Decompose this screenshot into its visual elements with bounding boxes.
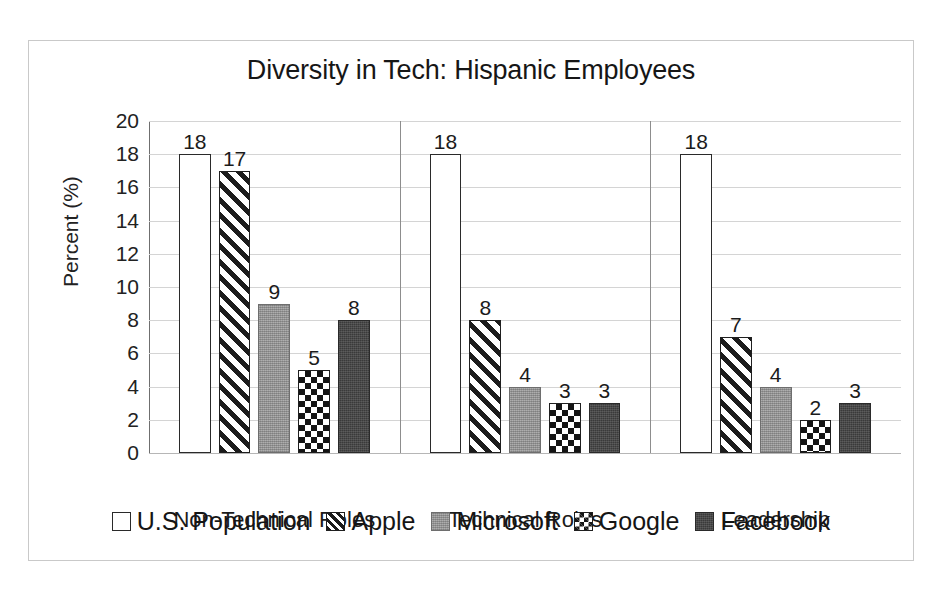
bar-value-label: 18 [183, 131, 206, 152]
y-tick-label-2: 2 [127, 408, 139, 432]
plot-area: 20181614121086420 1817958188433187423 [149, 121, 901, 453]
bar-value-label: 18 [685, 131, 708, 152]
bar-group: 187423 [650, 121, 901, 453]
bar-value-label: 3 [599, 380, 611, 401]
y-tick-label-14: 14 [116, 209, 139, 233]
bar[interactable]: 8 [338, 320, 370, 453]
legend-item[interactable]: Facebook [695, 509, 830, 534]
legend-label: Google [599, 509, 680, 534]
bar[interactable]: 3 [839, 403, 871, 453]
bar-value-label: 17 [223, 148, 246, 169]
y-tick-label-0: 0 [127, 441, 139, 465]
bar-group: 1817958 [149, 121, 400, 453]
bar-value-label: 4 [770, 364, 782, 385]
y-tick-label-10: 10 [116, 275, 139, 299]
legend-label: Facebook [720, 509, 830, 534]
y-tick-label-8: 8 [127, 308, 139, 332]
gridline-0 [149, 453, 901, 454]
bar[interactable]: 18 [430, 154, 462, 453]
legend-swatch-icon [431, 512, 450, 531]
bar[interactable]: 4 [509, 387, 541, 453]
legend-label: U.S. Population [137, 509, 311, 534]
legend-swatch-icon [574, 512, 593, 531]
chart-frame: Diversity in Tech: Hispanic Employees Pe… [28, 40, 914, 561]
category-separator [400, 121, 401, 453]
bar[interactable]: 2 [800, 420, 832, 453]
y-tick-label-4: 4 [127, 375, 139, 399]
bar[interactable]: 7 [720, 337, 752, 453]
legend-item[interactable]: Apple [326, 509, 415, 534]
bar[interactable]: 17 [219, 171, 251, 453]
y-tick-label-16: 16 [116, 175, 139, 199]
bar-value-label: 8 [479, 297, 491, 318]
bar[interactable]: 9 [258, 304, 290, 453]
bar-value-label: 4 [519, 364, 531, 385]
legend-label: Apple [351, 509, 415, 534]
legend-item[interactable]: Google [574, 509, 680, 534]
bar[interactable]: 8 [469, 320, 501, 453]
y-tick-label-12: 12 [116, 242, 139, 266]
bar-value-label: 9 [268, 281, 280, 302]
y-tick-label-6: 6 [127, 341, 139, 365]
bar[interactable]: 18 [179, 154, 211, 453]
bar[interactable]: 4 [760, 387, 792, 453]
bar-value-label: 5 [308, 347, 320, 368]
chart-legend: U.S. PopulationAppleMicrosoftGoogleFaceb… [29, 509, 913, 534]
legend-swatch-icon [695, 512, 714, 531]
bar-value-label: 8 [348, 297, 360, 318]
category-separator [650, 121, 651, 453]
bar[interactable]: 3 [549, 403, 581, 453]
bar[interactable]: 18 [680, 154, 712, 453]
legend-item[interactable]: U.S. Population [112, 509, 311, 534]
y-axis-title: Percent (%) [59, 176, 83, 287]
bar-value-label: 7 [730, 314, 742, 335]
bar[interactable]: 3 [589, 403, 621, 453]
y-tick-label-20: 20 [116, 109, 139, 133]
y-tick-label-18: 18 [116, 142, 139, 166]
bar-value-label: 3 [559, 380, 571, 401]
bar-group: 188433 [400, 121, 651, 453]
bar-value-label: 3 [849, 380, 861, 401]
bar[interactable]: 5 [298, 370, 330, 453]
bar-value-label: 2 [810, 397, 822, 418]
legend-swatch-icon [326, 512, 345, 531]
legend-label: Microsoft [456, 509, 557, 534]
chart-title: Diversity in Tech: Hispanic Employees [29, 55, 913, 86]
bar-value-label: 18 [434, 131, 457, 152]
legend-swatch-icon [112, 512, 131, 531]
legend-item[interactable]: Microsoft [431, 509, 557, 534]
